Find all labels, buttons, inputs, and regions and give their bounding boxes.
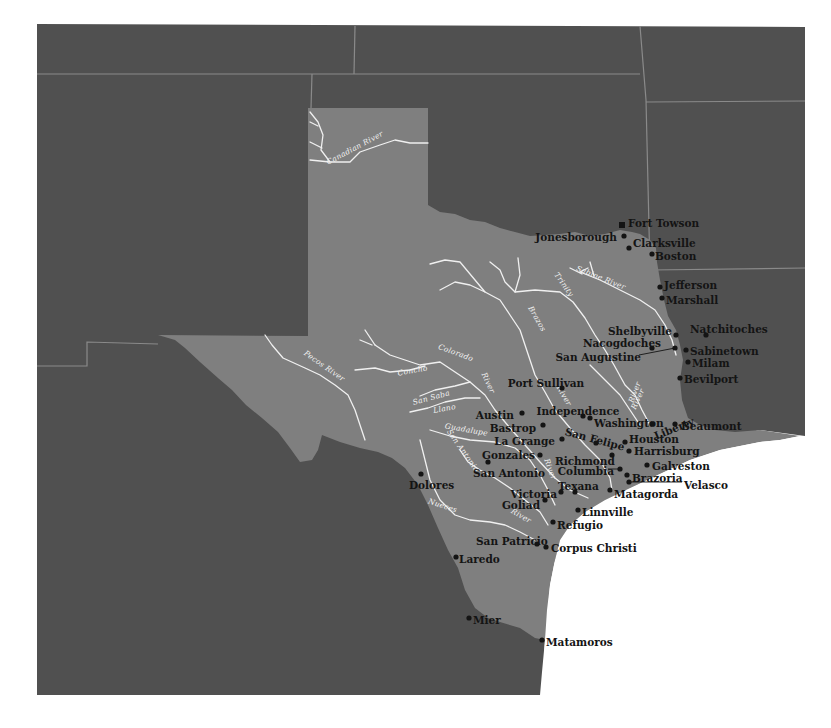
town-label: Matamoros [546, 636, 613, 648]
town-label: Jonesborough [534, 231, 617, 243]
town-marker-icon [626, 448, 631, 453]
town-label: Austin [475, 409, 515, 421]
town-label: Linnville [582, 506, 634, 518]
town-label: Shelbyville [608, 325, 672, 337]
town-marker-icon [673, 332, 678, 337]
town-milam: Milam [685, 357, 729, 369]
town-jonesborough: Jonesborough [534, 231, 626, 243]
town-jefferson: Jefferson [657, 279, 717, 291]
town-marker-icon [558, 489, 563, 494]
town-refugio: Refugio [550, 519, 603, 531]
town-gonzales: Gonzales [482, 449, 543, 461]
town-label: Gonzales [482, 449, 535, 461]
town-label: Goliad [502, 499, 541, 511]
town-label: San Patricio [476, 535, 548, 547]
town-label: Corpus Christi [551, 542, 637, 554]
town-marker-icon [624, 472, 629, 477]
town-marker-icon [542, 497, 547, 502]
town-boston: Boston [649, 250, 696, 262]
town-bevilport: Bevilport [677, 373, 738, 385]
town-marker-icon [543, 544, 548, 549]
town-houston: Houston [622, 433, 679, 445]
town-marker-icon [519, 410, 524, 415]
town-marker-icon [626, 479, 631, 484]
town-label: Independence [537, 405, 620, 417]
town-label: Jefferson [663, 279, 717, 291]
town-label: Bevilport [684, 373, 739, 385]
town-label: Texana [558, 480, 599, 492]
town-label: Clarksville [633, 237, 696, 249]
town-marker-icon [466, 615, 471, 620]
town-marker-icon [550, 519, 555, 524]
town-marker-icon [453, 554, 458, 559]
town-label: Sabinetown [690, 345, 759, 357]
town-marker-icon [672, 421, 677, 426]
town-la-grange: La Grange [494, 435, 564, 447]
town-marker-icon [621, 233, 626, 238]
town-label: Nacogdoches [583, 337, 661, 349]
town-marker-icon [677, 375, 682, 380]
town-marker-icon [659, 295, 664, 300]
town-marker-icon [485, 459, 490, 464]
town-label: Fort Towson [628, 217, 699, 229]
town-marker-icon [559, 436, 564, 441]
town-marker-icon [607, 487, 612, 492]
town-label: Matagorda [614, 488, 678, 500]
town-label: Marshall [666, 294, 718, 306]
town-label: Refugio [557, 519, 603, 531]
town-label: Dolores [409, 479, 454, 491]
town-marker-icon [617, 466, 622, 471]
town-label: Columbia [558, 465, 614, 477]
town-label: Bastrop [490, 422, 536, 434]
town-label: Natchitoches [690, 323, 768, 335]
town-label: Milam [692, 357, 730, 369]
town-linnville: Linnville [575, 506, 633, 518]
town-marker-icon [540, 422, 545, 427]
town-label: San Antonio [473, 467, 545, 479]
town-beaumont: Beaumont [672, 420, 741, 432]
town-nacogdoches: Nacogdoches [583, 337, 661, 351]
town-san-patricio: San Patricio [476, 535, 548, 547]
historical-texas-map: Canadian RiverSabine RiverTrinityRiverBr… [0, 0, 831, 728]
town-marker-icon [575, 507, 580, 512]
town-marker-icon [649, 251, 654, 256]
town-label: Galveston [652, 460, 710, 472]
town-galveston: Galveston [644, 460, 710, 472]
map-canvas: Canadian RiverSabine RiverTrinityRiverBr… [0, 0, 831, 728]
town-label: San Augustine [556, 351, 642, 363]
town-columbia: Columbia [558, 465, 623, 477]
town-marker-icon [537, 452, 542, 457]
town-label: Beaumont [681, 420, 742, 432]
town-marker-icon [587, 415, 592, 420]
town-marker-icon [685, 359, 690, 364]
town-laredo: Laredo [453, 553, 499, 565]
town-marker-icon [657, 284, 662, 289]
town-matamoros: Matamoros [539, 636, 612, 648]
town-label: Mier [473, 614, 501, 626]
town-port-sullivan: Port Sullivan [508, 377, 585, 391]
town-marshall: Marshall [659, 294, 718, 306]
town-clarksville: Clarksville [626, 237, 696, 251]
town-label: Velasco [683, 479, 728, 491]
town-marker-icon [539, 637, 544, 642]
town-shelbyville: Shelbyville [608, 325, 679, 338]
town-corpus-christi: Corpus Christi [543, 542, 636, 554]
town-marker-icon [672, 345, 677, 350]
town-label: Port Sullivan [508, 377, 585, 389]
town-label: Houston [629, 433, 679, 445]
fort-marker-icon [619, 222, 625, 228]
town-marker-icon [683, 347, 688, 352]
town-marker-icon [649, 421, 654, 426]
town-label: Boston [655, 250, 697, 262]
town-harrisburg: Harrisburg [626, 445, 700, 457]
town-marker-icon [644, 462, 649, 467]
town-fort-towson: Fort Towson [619, 217, 699, 229]
town-label: Laredo [459, 553, 500, 565]
town-matagorda: Matagorda [607, 487, 678, 500]
town-marker-icon [626, 245, 631, 250]
town-sabinetown: Sabinetown [683, 345, 759, 357]
town-marker-icon [418, 471, 423, 476]
town-marker-icon [622, 439, 627, 444]
town-label: La Grange [494, 435, 555, 447]
town-label: Harrisburg [634, 445, 700, 457]
